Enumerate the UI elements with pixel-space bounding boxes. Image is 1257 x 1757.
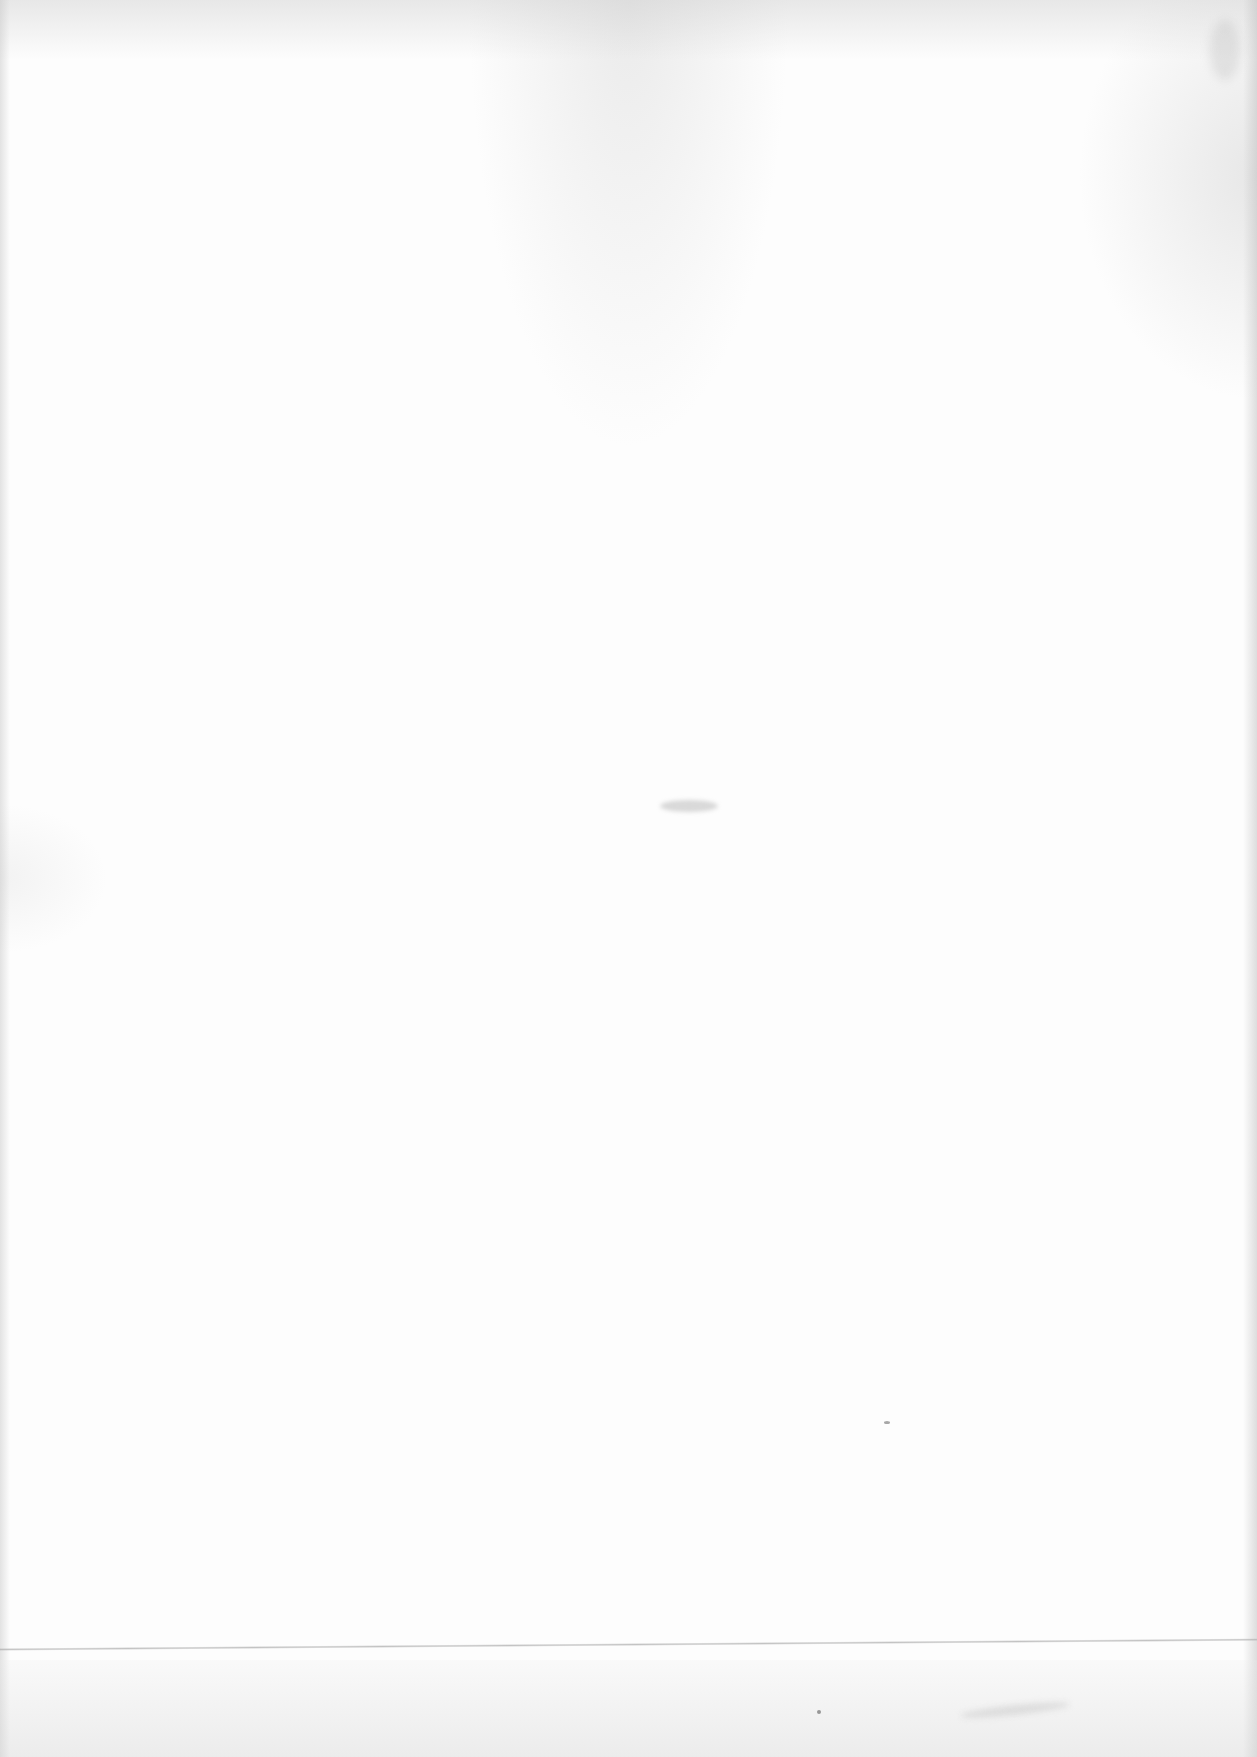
speck — [884, 1421, 890, 1424]
corner-stain — [1210, 20, 1240, 80]
scan-left-shadow — [0, 0, 10, 1757]
bottom-strip — [0, 1660, 1257, 1757]
fold-line — [0, 1638, 1257, 1651]
blank-scanned-page — [0, 0, 1257, 1757]
speck — [817, 1710, 821, 1714]
scan-top-shadow — [0, 0, 1257, 60]
scan-right-shadow — [1243, 0, 1257, 1757]
center-smudge — [660, 800, 718, 812]
